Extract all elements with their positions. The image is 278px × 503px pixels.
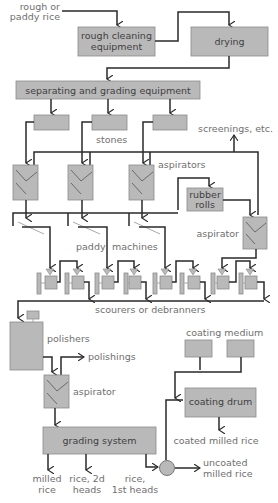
screenings-link-right xyxy=(234,152,258,215)
polishers-label: polishers xyxy=(47,333,90,344)
aspirator-lower xyxy=(44,375,69,408)
rubber-rolls-label-2: rolls xyxy=(195,199,215,210)
uncoated-label-1: uncoated xyxy=(203,457,248,468)
aspirator-right xyxy=(243,217,267,249)
polishings-label: polishings xyxy=(88,351,136,362)
arrow-to-junction xyxy=(146,454,158,467)
screenings-label: screenings, etc. xyxy=(198,123,273,134)
paddy-distribution-line xyxy=(13,213,178,226)
arrow-paddy1-down xyxy=(22,227,50,268)
stones-label: stones xyxy=(96,134,127,145)
uncoated-label-2: milled rice xyxy=(203,468,253,479)
rice-1st-heads-label-2: 1st heads xyxy=(112,484,158,495)
scourers-label: scourers or debranners xyxy=(95,304,206,315)
rice-2d-heads-label-2: heads xyxy=(73,484,102,495)
aspirator-2 xyxy=(68,165,93,200)
arrow-polishers-to-aspirator xyxy=(43,357,52,372)
grading-system-label: grading system xyxy=(63,435,137,446)
paddy-machine-2 xyxy=(73,222,100,234)
coating-medium-label: coating medium xyxy=(186,327,263,338)
junction-valve xyxy=(160,461,175,476)
coated-milled-rice-label: coated milled rice xyxy=(173,435,258,446)
scourers-row xyxy=(37,261,264,299)
rice-2d-heads-label-1: rice, 2d xyxy=(69,473,105,484)
coating-medium-box-2 xyxy=(227,340,254,357)
machines-label: machines xyxy=(112,241,158,252)
arrow-to-aspirator-3 xyxy=(143,122,153,163)
aspirator-lower-label: aspirator xyxy=(73,386,116,397)
aspirators-label: aspirators xyxy=(158,159,206,170)
rice-milling-diagram: rough or paddy rice rough cleaning equip… xyxy=(0,0,278,503)
aspirator-3 xyxy=(129,165,154,200)
coating-medium-box-1 xyxy=(185,340,212,357)
paddy-label: paddy xyxy=(76,241,106,252)
rough-cleaning-label-2: equipment xyxy=(91,41,143,52)
rough-cleaning-label-1: rough cleaning xyxy=(81,30,152,41)
junction-to-coating-drum xyxy=(166,400,183,460)
flow-arrow-input xyxy=(62,11,117,25)
arrow-to-polishings xyxy=(61,357,84,375)
flow-arrow-to-separating xyxy=(107,56,229,79)
paddy-machine-3 xyxy=(134,222,160,234)
separating-label: separating and grading equipment xyxy=(25,85,191,96)
polisher-feed-box xyxy=(27,311,39,319)
aspirator-1 xyxy=(13,165,38,200)
milled-rice-label-2: rice xyxy=(38,484,56,495)
milled-rice-label-1: milled xyxy=(32,473,61,484)
separator-box-2 xyxy=(92,115,127,130)
arrow-rubber-to-aspirator xyxy=(223,200,250,215)
paddy-machine-1 xyxy=(18,222,44,234)
drying-label: drying xyxy=(214,36,244,47)
aspirator-right-label: aspirator xyxy=(196,228,239,239)
coating-drum-label: coating drum xyxy=(189,396,253,407)
input-label-line2: paddy rice xyxy=(10,11,60,22)
separator-box-3 xyxy=(153,115,187,130)
rice-1st-heads-label-1: rice, xyxy=(125,473,146,484)
separator-box-1 xyxy=(34,115,69,130)
arrow-to-aspirator-1 xyxy=(26,122,34,163)
arrow-asp-right-down xyxy=(222,249,256,268)
polishers-box xyxy=(10,322,43,370)
